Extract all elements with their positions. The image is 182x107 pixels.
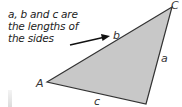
side-label-b: b <box>113 29 120 42</box>
triangle-shape <box>47 7 172 104</box>
side-label-a: a <box>161 52 168 65</box>
side-label-c: c <box>94 95 100 107</box>
vertex-label-a: A <box>35 77 44 90</box>
vertex-label-c: C <box>171 0 179 12</box>
triangle-diagram: C A b a c <box>0 0 182 107</box>
arrow-icon <box>70 34 110 45</box>
